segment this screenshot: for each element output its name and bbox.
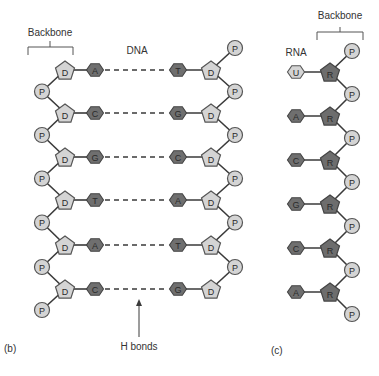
deoxyribose-label: D: [62, 155, 69, 165]
phosphate: P: [345, 175, 360, 190]
dna-backbone-label: Backbone: [28, 27, 73, 38]
phosphate: P: [35, 303, 50, 318]
nucleobase: T: [87, 194, 104, 207]
phosphate: P: [345, 131, 360, 146]
nucleobase: C: [288, 242, 305, 255]
phosphate-label: P: [349, 47, 355, 57]
phosphate: P: [345, 307, 360, 322]
dna-title: DNA: [126, 45, 147, 56]
bond-lines: [42, 48, 235, 310]
phosphate: P: [345, 219, 360, 234]
nucleobase: A: [87, 239, 104, 252]
phosphate-label: P: [232, 218, 238, 228]
nucleobase: G: [288, 198, 305, 211]
ribose-label: R: [327, 290, 334, 300]
base-label: A: [293, 288, 299, 298]
rna-backbone-label: Backbone: [318, 10, 363, 21]
base-label: A: [92, 66, 98, 76]
rna-strand: PPPPPPPRURARCRGRCRA: [288, 44, 360, 322]
rna-panel-label: (c): [271, 345, 283, 356]
base-label: C: [92, 109, 99, 119]
deoxyribose-label: D: [62, 198, 69, 208]
base-label: A: [293, 112, 299, 122]
hbond-arrowhead-icon: [136, 299, 142, 306]
phosphate: P: [228, 41, 243, 56]
phosphate: P: [228, 128, 243, 143]
base-label: C: [293, 244, 300, 254]
phosphate: P: [228, 171, 243, 186]
deoxyribose-label: D: [62, 243, 69, 253]
phosphate: P: [35, 84, 50, 99]
rna-backbone-bracket: [317, 27, 363, 40]
nucleobase: T: [170, 64, 187, 77]
nucleobase: C: [288, 154, 305, 167]
phosphate-label: P: [349, 90, 355, 100]
nucleobase: C: [87, 107, 104, 120]
deoxyribose-label: D: [208, 287, 215, 297]
phosphate-label: P: [39, 87, 45, 97]
nucleobase: A: [288, 110, 305, 123]
dna-backbone-bracket: [28, 41, 73, 55]
phosphate-label: P: [232, 263, 238, 273]
bond-lines: [296, 51, 352, 314]
dna-rna-diagram: Backbone DNA PPDDATPPDDCGPPDDGCPPDDTAPPD…: [0, 0, 379, 376]
ribose-label: R: [327, 70, 334, 80]
phosphate: P: [35, 260, 50, 275]
deoxyribose-label: D: [208, 243, 215, 253]
phosphate: P: [35, 171, 50, 186]
base-label: C: [92, 285, 99, 295]
nucleobase: G: [87, 151, 104, 164]
base-label: T: [175, 241, 181, 251]
base-label: G: [174, 109, 181, 119]
ribose-label: R: [327, 114, 334, 124]
phosphate-label: P: [349, 134, 355, 144]
deoxyribose-label: D: [62, 68, 69, 78]
base-label: U: [293, 68, 300, 78]
phosphate: P: [35, 128, 50, 143]
deoxyribose-label: D: [208, 198, 215, 208]
nucleobase: U: [288, 66, 305, 79]
base-label: C: [175, 153, 182, 163]
phosphate: P: [345, 87, 360, 102]
phosphate: P: [228, 215, 243, 230]
phosphate-label: P: [39, 174, 45, 184]
base-label: G: [292, 200, 299, 210]
ribose-label: R: [327, 246, 334, 256]
nucleobase: A: [288, 286, 305, 299]
nucleobase: C: [87, 283, 104, 296]
phosphate-label: P: [39, 218, 45, 228]
base-label: A: [175, 196, 181, 206]
nucleobase: A: [87, 64, 104, 77]
deoxyribose-label: D: [208, 155, 215, 165]
phosphate-label: P: [349, 178, 355, 188]
phosphate-label: P: [39, 263, 45, 273]
phosphate: P: [345, 44, 360, 59]
deoxyribose-label: D: [208, 68, 215, 78]
ribose-label: R: [327, 202, 334, 212]
nucleobase: C: [170, 151, 187, 164]
deoxyribose-label: D: [62, 111, 69, 121]
deoxyribose-label: D: [62, 287, 69, 297]
nucleobase: A: [170, 194, 187, 207]
phosphate: P: [35, 215, 50, 230]
phosphate-label: P: [232, 87, 238, 97]
phosphate: P: [228, 84, 243, 99]
base-label: A: [92, 241, 98, 251]
nucleobase: T: [170, 239, 187, 252]
phosphate-label: P: [39, 131, 45, 141]
phosphate-label: P: [232, 174, 238, 184]
ribose-label: R: [327, 158, 334, 168]
phosphate-label: P: [39, 306, 45, 316]
phosphate: P: [228, 260, 243, 275]
base-label: T: [92, 196, 98, 206]
phosphate-label: P: [349, 222, 355, 232]
phosphate-label: P: [232, 131, 238, 141]
phosphate-label: P: [349, 310, 355, 320]
base-label: G: [91, 153, 98, 163]
nucleobase: G: [170, 107, 187, 120]
dna-panel-label: (b): [4, 343, 16, 354]
phosphate: P: [345, 263, 360, 278]
base-label: T: [175, 66, 181, 76]
rna-title: RNA: [285, 47, 306, 58]
hbond-label: H bonds: [120, 341, 157, 352]
